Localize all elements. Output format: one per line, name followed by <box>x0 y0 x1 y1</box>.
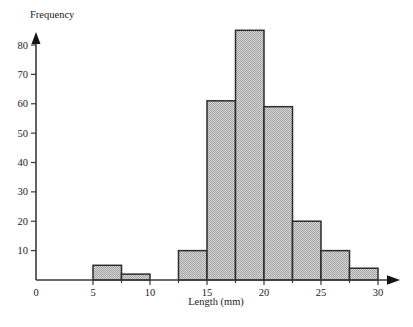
histogram-bar <box>350 268 379 280</box>
y-tick-label: 10 <box>18 245 29 256</box>
y-axis-ticks: 1020304050607080 <box>18 40 37 257</box>
bars-group <box>93 30 378 280</box>
x-tick-label: 5 <box>90 287 95 298</box>
y-tick-label: 30 <box>18 186 29 197</box>
y-tick-label: 60 <box>18 98 29 109</box>
x-tick-label: 10 <box>145 287 156 298</box>
histogram-bar <box>122 274 151 280</box>
histogram-bar <box>293 221 322 280</box>
y-tick-label: 70 <box>18 69 29 80</box>
histogram-bar <box>264 107 293 280</box>
x-tick-label: 30 <box>373 287 384 298</box>
y-tick-label: 50 <box>18 128 29 139</box>
x-axis-arrow-icon <box>387 275 400 285</box>
histogram-bar <box>236 30 265 280</box>
histogram-bar <box>207 101 236 280</box>
x-tick-label: 20 <box>259 287 270 298</box>
histogram-bar <box>93 265 122 280</box>
histogram-chart: 1020304050607080 051015202530 Frequency … <box>0 0 413 327</box>
y-tick-label: 80 <box>18 40 29 51</box>
y-axis-title: Frequency <box>30 9 75 20</box>
histogram-bar <box>321 251 350 280</box>
histogram-bar <box>179 251 208 280</box>
y-axis-arrow-icon <box>32 32 41 44</box>
x-axis-title: Length (mm) <box>188 296 244 308</box>
x-tick-label: 0 <box>33 287 38 298</box>
x-tick-label: 25 <box>316 287 327 298</box>
chart-canvas: 1020304050607080 051015202530 Frequency … <box>0 0 413 327</box>
y-tick-label: 40 <box>18 157 29 168</box>
y-tick-label: 20 <box>18 216 29 227</box>
